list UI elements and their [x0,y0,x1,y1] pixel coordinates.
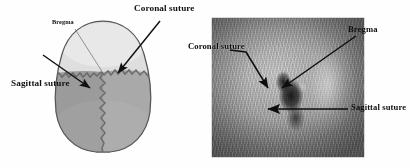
figure-container: Bregma Coronal suture Sagittal suture Co… [0,0,412,168]
photo-label-coronal-suture: Coronal suture [188,42,245,51]
surgical-photograph [212,18,364,157]
diagram-label-coronal-suture: Coronal suture [134,4,195,13]
parietal-bone-right [103,70,166,168]
diagram-label-sagittal-suture: Sagittal suture [11,79,70,88]
sagittal-suture-line [100,73,105,153]
bregma-leader-line [75,29,103,73]
skull-photograph-panel: Coronal suture Bregma Sagittal suture [206,0,412,168]
coronal-suture-line [55,70,152,77]
photo-label-bregma: Bregma [348,25,378,34]
photo-label-sagittal-suture: Sagittal suture [351,103,406,112]
coronal-suture-arrow [118,21,160,73]
photograph-vignette [212,18,364,157]
diagram-label-bregma: Bregma [52,19,74,25]
skull-diagram-panel: Bregma Coronal suture Sagittal suture [0,0,206,168]
